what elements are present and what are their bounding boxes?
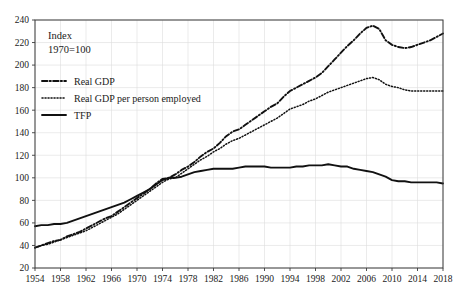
y-axis-tick-labels: 20406080100120140160180200220240 [15,15,30,273]
legend-label-3: TFP [74,110,92,121]
y-tick-label: 200 [15,60,30,70]
x-tick-label: 2006 [357,274,376,284]
x-tick-label: 1962 [77,274,96,284]
line-chart: 20406080100120140160180200220240 1954195… [0,0,455,303]
x-tick-label: 2018 [434,274,453,284]
chart-legend: Real GDPReal GDP per person employedTFP [42,76,201,121]
y-tick-label: 40 [20,241,30,251]
y-tick-label: 160 [15,106,30,116]
y-tick-label: 60 [20,218,30,228]
x-tick-label: 1966 [102,274,121,284]
chart-container: 20406080100120140160180200220240 1954195… [0,0,455,303]
x-tick-label: 1974 [153,274,172,284]
y-tick-label: 80 [20,196,30,206]
x-tick-label: 1998 [306,274,325,284]
x-tick-label: 1958 [51,274,70,284]
x-tick-label: 2002 [332,274,351,284]
x-tick-label: 2014 [408,274,427,284]
x-tick-label: 1982 [204,274,223,284]
y-tick-label: 140 [15,128,30,138]
x-tick-label: 1970 [128,274,147,284]
x-tick-label: 1978 [179,274,198,284]
annotation-base-year: 1970=100 [48,44,91,55]
x-tick-label: 1990 [255,274,274,284]
x-tick-label: 1994 [281,274,300,284]
y-tick-label: 100 [15,173,30,183]
y-tick-label: 20 [20,263,30,273]
y-tick-label: 240 [15,15,30,25]
x-axis-tick-labels: 1954195819621966197019741978198219861990… [26,274,453,284]
axes [32,20,443,271]
y-tick-label: 120 [15,151,30,161]
y-tick-label: 220 [15,38,30,48]
x-tick-label: 1954 [26,274,45,284]
gridlines [35,20,443,268]
x-tick-label: 2010 [383,274,402,284]
y-tick-label: 180 [15,83,30,93]
annotation-index-label: Index [48,30,73,41]
x-tick-label: 1986 [230,274,249,284]
legend-label-2: Real GDP per person employed [74,93,201,104]
legend-label-1: Real GDP [74,76,115,87]
